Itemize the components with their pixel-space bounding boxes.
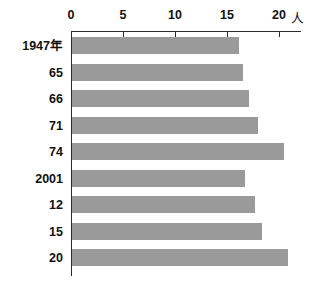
bar-row: 65 [0, 64, 322, 81]
bar-row: 15 [0, 223, 322, 240]
bar [72, 170, 245, 187]
category-label: 1947年 [22, 40, 63, 53]
category-label: 65 [49, 67, 63, 80]
bar-row: 66 [0, 90, 322, 107]
bar-row: 12 [0, 196, 322, 213]
category-label: 12 [49, 199, 63, 212]
bar [72, 90, 249, 107]
category-label: 74 [49, 146, 63, 159]
category-label: 71 [49, 120, 63, 133]
category-label: 2001 [35, 173, 63, 186]
bar [72, 37, 239, 54]
category-label: 20 [49, 252, 63, 265]
bar-row: 1947年 [0, 37, 322, 54]
category-label: 66 [49, 93, 63, 106]
bar-row: 74 [0, 143, 322, 160]
bar-row: 2001 [0, 170, 322, 187]
bar [72, 143, 284, 160]
bar [72, 117, 258, 134]
bar-chart: 05101520人 1947年656671742001121520 [0, 0, 322, 296]
bar [72, 196, 255, 213]
bar [72, 249, 288, 266]
bar-row: 20 [0, 249, 322, 266]
category-label: 15 [49, 226, 63, 239]
bar-row: 71 [0, 117, 322, 134]
plot-area: 1947年656671742001121520 [0, 0, 322, 296]
bar [72, 223, 262, 240]
bar [72, 64, 243, 81]
